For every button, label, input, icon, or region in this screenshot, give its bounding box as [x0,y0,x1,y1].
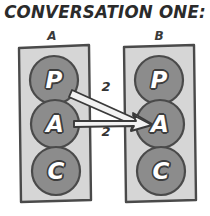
transaction-weight-upper: 2 [99,79,113,94]
person-a-adult-circle [31,100,79,148]
person-a-child-circle [32,147,80,195]
person-b-parent-circle [135,56,183,104]
conversation-diagram: CONVERSATION ONE: A B P A C P A C 2 2 [0,0,210,216]
diagram-graphics [0,0,210,216]
transaction-weight-lower: 2 [99,124,113,139]
person-b-child-circle [137,147,185,195]
